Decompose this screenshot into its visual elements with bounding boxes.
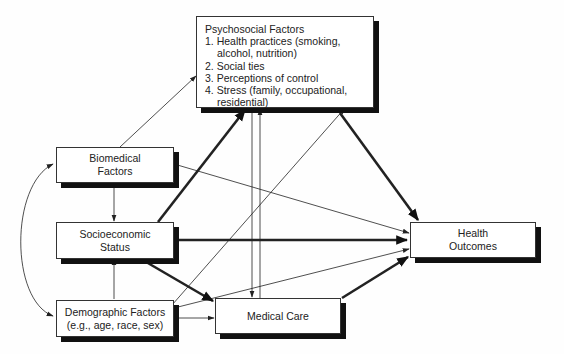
node-health-outcomes: Health Outcomes: [410, 222, 536, 258]
socioeconomic-line1: Socioeconomic: [79, 228, 150, 241]
health-outcomes-line2: Outcomes: [449, 240, 497, 253]
psychosocial-item-2: 2. Social ties: [205, 60, 365, 72]
health-outcomes-line1: Health: [458, 227, 488, 240]
biomedical-line2: Factors: [97, 165, 132, 178]
medical-care-label: Medical Care: [247, 310, 309, 323]
node-psychosocial-factors: Psychosocial Factors 1. Health practices…: [196, 16, 374, 108]
node-medical-care: Medical Care: [215, 298, 341, 334]
edge-bio-demo-curve: [21, 164, 53, 316]
demographic-line1: Demographic Factors: [65, 306, 165, 319]
socioeconomic-line2: Status: [100, 241, 130, 254]
edge-psych-health: [340, 113, 418, 220]
edge-bio-health: [174, 164, 409, 233]
node-biomedical-factors: Biomedical Factors: [56, 147, 174, 183]
edge-ses-medcare: [141, 259, 213, 301]
psychosocial-item-1: 1. Health practices (smoking, alcohol, n…: [205, 35, 365, 59]
node-demographic-factors: Demographic Factors (e.g., age, race, se…: [56, 300, 174, 337]
psychosocial-item-4: 4. Stress (family, occupational, residen…: [205, 84, 365, 108]
edge-bio-psych: [120, 76, 196, 147]
biomedical-line1: Biomedical: [89, 152, 140, 165]
node-socioeconomic-status: Socioeconomic Status: [56, 222, 174, 259]
psychosocial-title: Psychosocial Factors: [205, 23, 365, 35]
demographic-line2: (e.g., age, race, sex): [67, 319, 163, 332]
psychosocial-item-3: 3. Perceptions of control: [205, 72, 365, 84]
